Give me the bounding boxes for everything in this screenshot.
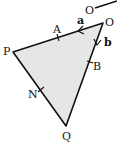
label-o: O	[105, 16, 114, 29]
label-top-o: O	[85, 4, 94, 17]
partial-line	[95, 1, 117, 8]
label-vector-a: a	[77, 14, 84, 27]
label-n-point: N	[28, 88, 38, 101]
label-p: P	[3, 45, 11, 58]
label-a-point: A	[52, 23, 62, 36]
label-b-point: B	[93, 60, 101, 73]
label-vector-b: b	[104, 36, 112, 49]
label-q: Q	[62, 130, 71, 142]
triangle-diagram: O O P Q A B N a b	[0, 0, 117, 142]
